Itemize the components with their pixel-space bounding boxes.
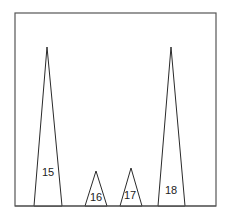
peak-diagram: 15 16 17 18 (0, 0, 225, 219)
peak-label-18: 18 (165, 184, 177, 196)
peak-15 (34, 47, 62, 206)
peak-label-17: 17 (124, 189, 136, 201)
peak-18 (158, 47, 185, 206)
peak-label-16: 16 (90, 191, 102, 203)
peak-label-15: 15 (42, 166, 54, 178)
